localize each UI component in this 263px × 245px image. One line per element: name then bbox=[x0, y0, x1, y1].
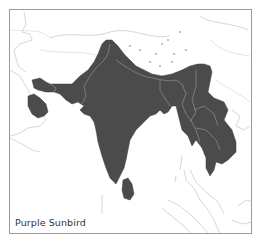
range-map bbox=[10, 10, 252, 234]
range-oman bbox=[28, 94, 48, 118]
range-sri-lanka bbox=[122, 178, 134, 200]
range-main bbox=[32, 40, 236, 184]
species-range bbox=[28, 40, 236, 200]
map-frame: Purple Sunbird bbox=[9, 9, 252, 234]
species-name-label: Purple Sunbird bbox=[15, 217, 86, 228]
